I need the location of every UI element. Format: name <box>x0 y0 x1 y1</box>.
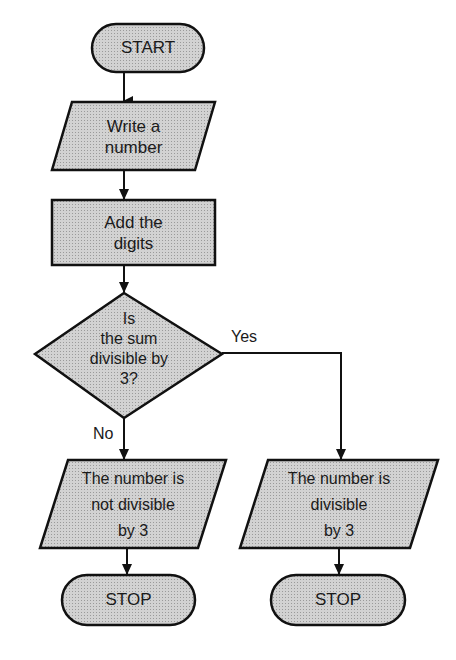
stop-right-label: STOP <box>271 590 405 609</box>
arrow-yes-branch <box>222 353 341 459</box>
output-not-divisible-label: The number is not divisible by 3 <box>52 466 214 544</box>
no-label: No <box>93 425 113 443</box>
input-label: Write a number <box>62 116 205 158</box>
process-label: Add the digits <box>52 212 215 254</box>
stop-left-label: STOP <box>62 590 195 609</box>
yes-label: Yes <box>231 328 257 346</box>
start-label: START <box>92 38 204 57</box>
decision-label: Is the sum divisible by 3? <box>45 309 213 389</box>
output-divisible-label: The number is divisible by 3 <box>254 466 424 544</box>
